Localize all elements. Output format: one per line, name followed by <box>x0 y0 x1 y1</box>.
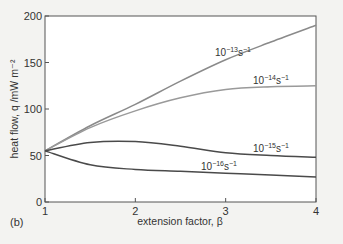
heat-flow-chart: 050100150200 1234 10−13s−110−14s−110−15s… <box>0 0 343 244</box>
x-tick-label: 4 <box>313 205 319 217</box>
y-tick-label: 150 <box>24 57 42 69</box>
plot-area <box>45 16 316 202</box>
x-tick-label: 3 <box>223 205 229 217</box>
y-axis-title: heat flow, q /mW m⁻² <box>8 59 20 158</box>
x-tick-label: 1 <box>42 205 48 217</box>
x-axis-title: extension factor, β <box>137 215 222 227</box>
y-tick-label: 50 <box>30 150 42 162</box>
panel-label: (b) <box>10 216 23 228</box>
y-tick-label: 200 <box>24 10 42 22</box>
y-tick-label: 100 <box>24 103 42 115</box>
